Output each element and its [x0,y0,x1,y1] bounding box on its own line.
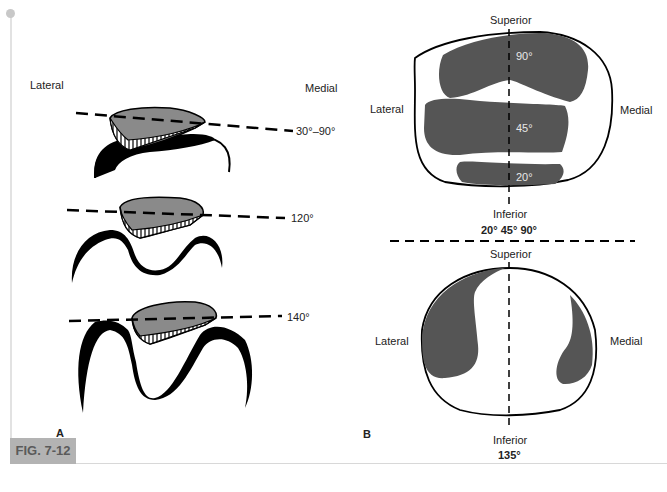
knee-view-30-90: 30°–90° [76,107,335,178]
zone-45-contact [424,99,568,155]
figure-canvas: Lateral Medial 30°–90° 120° 140° [0,0,667,492]
panel-b-label: B [363,428,371,440]
zone-20-contact [456,162,563,186]
angle-label-140: 140° [287,311,310,323]
panel-b-bottom-diagram: Superior Lateral Medial Inferior 135° B [363,248,642,461]
bottom-lateral-label: Lateral [375,335,409,347]
bottom-superior-label: Superior [490,248,532,260]
zone-90-label: 90° [516,50,533,62]
panel-a-label: A [56,427,64,439]
top-medial-label: Medial [620,104,652,116]
panel-a-lateral-label: Lateral [30,79,64,91]
knee-view-120: 120° [67,197,314,283]
zone-20-label: 20° [516,171,533,183]
top-lateral-label: Lateral [370,103,404,115]
zone-45-label: 45° [516,122,533,134]
angle-label-30-90: 30°–90° [296,125,335,137]
angle-label-120: 120° [291,212,314,224]
panel-a-medial-label: Medial [305,82,337,94]
top-caption: 20° 45° 90° [481,224,537,236]
panel-b-top-diagram: Superior 90° 45° 20° Lateral Medial Infe… [370,14,652,236]
bottom-caption: 135° [498,449,521,461]
knee-view-140: 140° [69,302,310,413]
bottom-inferior-label: Inferior [493,434,528,446]
panel-a: Lateral Medial 30°–90° 120° 140° [30,79,337,439]
top-superior-label: Superior [490,14,532,26]
bottom-medial-label: Medial [610,335,642,347]
top-inferior-label: Inferior [493,208,528,220]
